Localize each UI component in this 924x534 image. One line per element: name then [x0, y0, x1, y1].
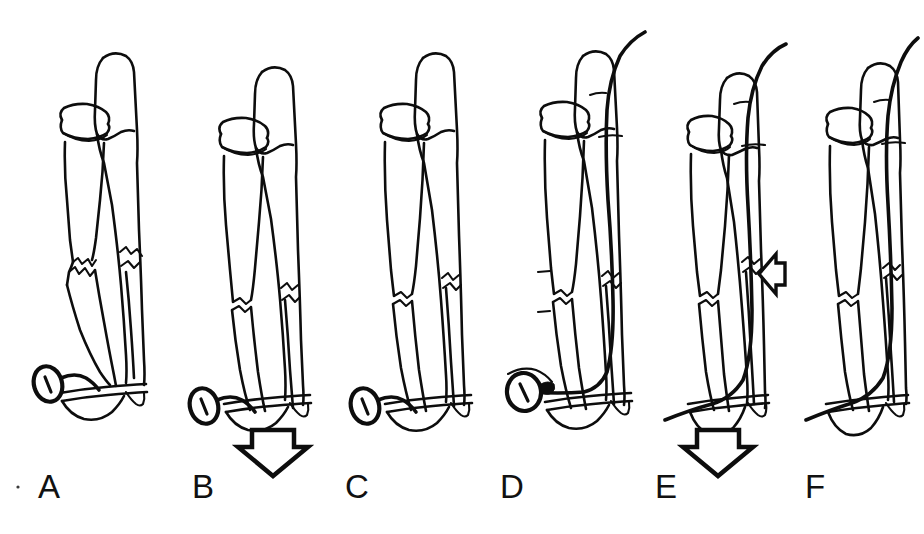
panel-label-c: C — [345, 470, 369, 503]
panel-label-a: A — [38, 470, 61, 503]
panel-f-drawing — [806, 38, 918, 435]
panel-b-drawing — [186, 67, 311, 476]
illustration-canvas — [0, 0, 924, 534]
panel-label-f: F — [805, 470, 826, 503]
panel-label-b: B — [192, 470, 215, 503]
panel-a-drawing — [16, 53, 147, 488]
panel-c-drawing — [347, 53, 472, 430]
panel-label-e: E — [655, 470, 678, 503]
figure-root: A B C D E F — [0, 0, 924, 534]
panel-label-d: D — [500, 470, 524, 503]
panel-d-drawing — [505, 32, 645, 429]
panel-e-drawing — [665, 44, 786, 476]
